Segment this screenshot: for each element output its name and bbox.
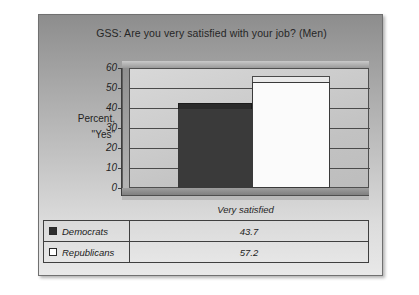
category-axis-label: Very satisfied <box>122 201 369 219</box>
table-row[interactable]: Democrats 43.7 <box>44 221 368 242</box>
legend-label-democrats: Democrats <box>62 226 108 237</box>
legend-data-table: Democrats 43.7 Republicans 57.2 <box>43 220 369 263</box>
slide-canvas: GSS: Are you very satisfied with your jo… <box>38 14 383 276</box>
y-tick-label-0: 0 <box>91 182 117 193</box>
plot-floor-front <box>122 196 369 200</box>
legend-value-republicans: 57.2 <box>130 242 368 262</box>
chart-title: GSS: Are you very satisfied with your jo… <box>39 27 384 39</box>
legend-key-democrats: Democrats <box>44 221 130 241</box>
plot-area <box>129 61 369 181</box>
plot-wall-left <box>122 68 129 188</box>
legend-swatch-republicans-icon <box>49 248 57 256</box>
gridline-50 <box>130 88 370 89</box>
plot-wall-back <box>129 68 369 188</box>
y-tick-label-60: 60 <box>91 62 117 73</box>
legend-label-republicans: Republicans <box>62 247 114 258</box>
y-tick-label-30: 30 <box>91 122 117 133</box>
bar-democrats[interactable] <box>178 109 252 188</box>
bar-republicans-front-face <box>252 82 330 188</box>
table-row[interactable]: Republicans 57.2 <box>44 242 368 262</box>
bar-democrats-front-face <box>178 109 252 188</box>
legend-value-democrats: 43.7 <box>130 221 368 241</box>
plot-floor <box>122 188 369 196</box>
bar-republicans[interactable] <box>252 82 330 188</box>
plot-wall-top <box>122 61 369 68</box>
y-tick-label-50: 50 <box>91 82 117 93</box>
legend-swatch-democrats-icon <box>49 227 57 235</box>
y-tick-label-20: 20 <box>91 142 117 153</box>
y-tick-label-10: 10 <box>91 162 117 173</box>
legend-key-republicans: Republicans <box>44 242 130 262</box>
y-tick-label-40: 40 <box>91 102 117 113</box>
